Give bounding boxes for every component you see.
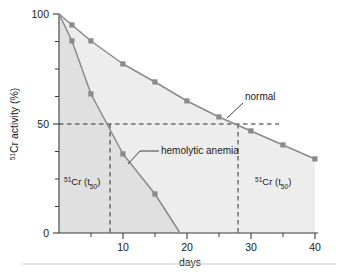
data-point-normal: [152, 79, 157, 84]
x-tick-label-30: 30: [245, 241, 257, 253]
data-point-normal: [248, 128, 253, 133]
x-axis-title: days: [179, 256, 201, 268]
data-point-normal: [120, 61, 125, 66]
data-point-normal: [280, 142, 285, 147]
chart-canvas: 100 50 0 10 20 30 40 days 51Cr activity …: [0, 0, 340, 274]
curve-label-normal: normal: [245, 91, 276, 102]
curve-label-hemolytic: hemolytic anemia: [161, 145, 239, 156]
data-point-normal: [69, 22, 74, 27]
x-tick-label-40: 40: [309, 241, 321, 253]
y-tick-label-100: 100: [31, 8, 49, 20]
data-point-normal: [184, 98, 189, 103]
y-axis-title-body: Cr activity (%): [8, 88, 20, 153]
left-t50-body: Cr (t: [71, 176, 90, 187]
data-point-hemolytic: [88, 91, 93, 96]
data-point-hemolytic: [152, 191, 157, 196]
leader-line-normal: [227, 103, 243, 118]
svg-text:51Cr activity (%): 51Cr activity (%): [8, 88, 20, 161]
right-t50-body: Cr (t: [262, 176, 281, 187]
y-tick-label-50: 50: [37, 118, 49, 130]
left-t50-tail: ): [97, 176, 100, 187]
x-tick-label-10: 10: [117, 241, 129, 253]
y-tick-label-0: 0: [43, 227, 49, 239]
data-point-hemolytic: [120, 151, 125, 156]
y-axis-title: 51Cr activity (%): [8, 88, 20, 161]
figure-container: 100 50 0 10 20 30 40 days 51Cr activity …: [0, 0, 340, 274]
data-point-normal: [216, 114, 221, 119]
x-tick-label-20: 20: [181, 241, 193, 253]
right-t50-tail: ): [288, 176, 291, 187]
data-point-hemolytic: [69, 38, 74, 43]
data-point-normal: [312, 156, 317, 161]
data-point-normal: [88, 38, 93, 43]
